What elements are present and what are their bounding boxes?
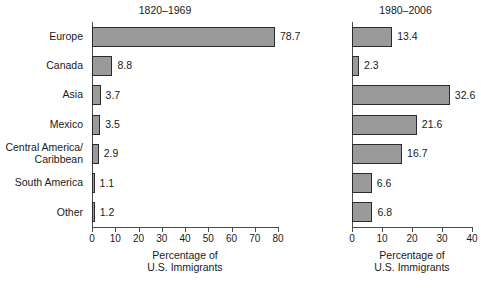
x-axis-title: Percentage of U.S. Immigrants xyxy=(352,249,472,273)
x-axis-tick xyxy=(352,227,353,232)
bar-value-label: 1.1 xyxy=(100,177,115,189)
x-axis-tick-label: 40 xyxy=(179,233,190,244)
x-axis-tick-label: 40 xyxy=(466,233,477,244)
bar-value-label: 78.7 xyxy=(280,30,300,42)
bar xyxy=(352,56,359,76)
x-axis-tick-label: 20 xyxy=(406,233,417,244)
bar xyxy=(352,27,392,47)
panel-1980-2006: 1980–2006 13.42.332.621.616.76.66.801020… xyxy=(330,0,481,291)
bar-value-label: 6.8 xyxy=(377,206,392,218)
x-axis-tick-label: 70 xyxy=(249,233,260,244)
bar xyxy=(92,173,95,193)
bar-value-label: 2.9 xyxy=(104,147,119,159)
bar-value-label: 2.3 xyxy=(364,59,379,71)
x-axis-tick xyxy=(232,227,233,232)
x-axis-tick xyxy=(472,227,473,232)
x-axis-tick-label: 20 xyxy=(133,233,144,244)
x-axis-tick-label: 10 xyxy=(110,233,121,244)
x-axis-tick-label: 80 xyxy=(272,233,283,244)
x-axis-tick-label: 30 xyxy=(156,233,167,244)
panel-1820-1969: 1820–1969 78.78.83.73.52.91.11.201020304… xyxy=(0,0,330,291)
panel-title: 1820–1969 xyxy=(0,4,330,16)
x-axis-title: Percentage of U.S. Immigrants xyxy=(92,249,278,273)
bar-value-label: 21.6 xyxy=(422,118,442,130)
bar-value-label: 1.2 xyxy=(100,206,115,218)
bar-value-label: 3.5 xyxy=(105,118,120,130)
bar xyxy=(92,144,99,164)
immigration-bar-chart-figure: EuropeCanadaAsiaMexicoCentral America/ C… xyxy=(0,0,481,291)
x-axis-tick xyxy=(382,227,383,232)
x-axis-tick xyxy=(208,227,209,232)
x-axis-tick xyxy=(278,227,279,232)
x-axis-tick xyxy=(255,227,256,232)
bar xyxy=(352,202,372,222)
x-axis-tick-label: 30 xyxy=(436,233,447,244)
x-axis-tick-label: 0 xyxy=(89,233,95,244)
x-axis-tick-label: 50 xyxy=(203,233,214,244)
x-axis-tick-label: 60 xyxy=(226,233,237,244)
x-axis-tick xyxy=(185,227,186,232)
bar xyxy=(352,173,372,193)
bar xyxy=(92,27,275,47)
x-axis-tick xyxy=(442,227,443,232)
x-axis-tick xyxy=(139,227,140,232)
bar xyxy=(92,56,112,76)
x-axis-tick xyxy=(92,227,93,232)
bar-value-label: 8.8 xyxy=(117,59,132,71)
plot-area: 13.42.332.621.616.76.66.8010203040Percen… xyxy=(352,22,472,227)
bar xyxy=(92,202,95,222)
bar xyxy=(352,144,402,164)
bar-value-label: 13.4 xyxy=(397,30,417,42)
bar xyxy=(352,115,417,135)
bar xyxy=(92,85,101,105)
x-axis-tick xyxy=(162,227,163,232)
x-axis-tick xyxy=(412,227,413,232)
bar xyxy=(92,115,100,135)
x-axis-tick-label: 0 xyxy=(349,233,355,244)
bar-value-label: 3.7 xyxy=(106,89,121,101)
bar xyxy=(352,85,450,105)
x-axis-tick xyxy=(115,227,116,232)
bar-value-label: 6.6 xyxy=(377,177,392,189)
bar-value-label: 16.7 xyxy=(407,147,427,159)
x-axis-tick-label: 10 xyxy=(376,233,387,244)
plot-area: 78.78.83.73.52.91.11.201020304050607080P… xyxy=(92,22,278,227)
panel-title: 1980–2006 xyxy=(330,4,481,16)
bar-value-label: 32.6 xyxy=(455,89,475,101)
